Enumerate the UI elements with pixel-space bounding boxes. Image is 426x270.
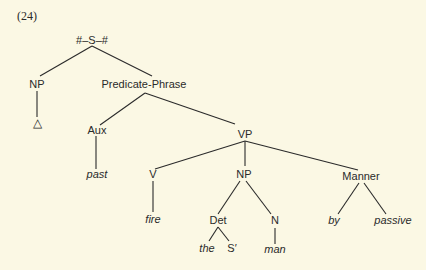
node-s: #–S–#: [76, 35, 108, 46]
delta-icon: △: [33, 117, 42, 129]
node-aux: Aux: [88, 125, 107, 136]
leaf-passive: passive: [374, 215, 411, 226]
node-np-object: NP: [236, 169, 251, 180]
node-manner: Manner: [342, 171, 379, 182]
node-v: V: [149, 169, 156, 180]
leaf-man: man: [264, 244, 285, 255]
tree-edges: [0, 0, 426, 270]
node-n: N: [271, 215, 279, 226]
syntax-tree-diagram: (24) #–S–# NP △ Predicate-Phrase Aux pas…: [0, 0, 426, 270]
example-number: (24): [17, 9, 37, 24]
leaf-fire: fire: [145, 214, 160, 225]
leaf-the: the: [199, 243, 214, 254]
leaf-past: past: [87, 169, 108, 180]
node-predicate-phrase: Predicate-Phrase: [102, 79, 187, 90]
node-det: Det: [209, 215, 226, 226]
leaf-by: by: [328, 215, 340, 226]
node-vp: VP: [238, 129, 253, 140]
leaf-s-prime: S′: [227, 243, 236, 254]
node-np-subject: NP: [29, 79, 44, 90]
